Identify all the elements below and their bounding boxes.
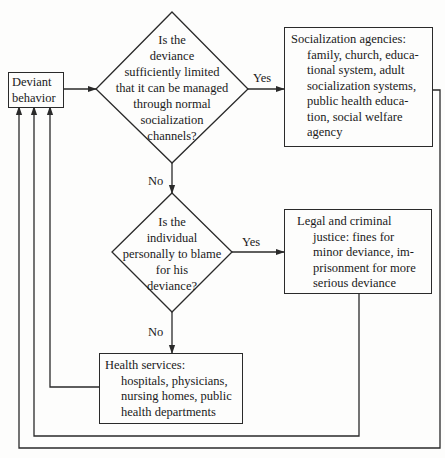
edge-label-d1-no: No (148, 174, 163, 188)
deviant-behavior-line-2: behavior (12, 91, 60, 107)
edge-label-d1-yes: Yes (253, 71, 271, 85)
socialization-line: socialization systems, (291, 79, 432, 95)
socialization-line: tion, social welfare (291, 110, 432, 126)
socialization-line: public health educa- (291, 94, 432, 110)
health-line: hospitals, physicians, (105, 374, 242, 390)
socialization-agencies-box: Socialization agencies: family, church, … (284, 27, 433, 147)
legal-title: Legal and criminal (297, 214, 431, 230)
deviant-behavior-box: Deviant behavior (8, 72, 64, 108)
decision-1-line: sufficiently limited (102, 64, 242, 80)
decision-1-line: that it can be managed (102, 80, 242, 96)
decision-1-line: deviance (102, 48, 242, 64)
decision-2-line: personally to blame (112, 246, 232, 262)
flowchart-canvas: Deviant behavior Is the deviance suffici… (0, 0, 445, 458)
decision-1-line: Is the (102, 32, 242, 48)
edge-label-d2-no: No (148, 325, 163, 339)
deviant-behavior-line-1: Deviant (12, 75, 60, 91)
decision-2-line: for his (112, 262, 232, 278)
legal-criminal-justice-box: Legal and criminal justice: fines for mi… (284, 209, 432, 294)
decision-2-line: Is the (112, 214, 232, 230)
socialization-title: Socialization agencies: (291, 32, 432, 48)
edge-label-d2-yes: Yes (242, 235, 260, 249)
health-line: nursing homes, public (105, 389, 242, 405)
health-line: health departments (105, 405, 242, 421)
health-services-box: Health services: hospitals, physicians, … (99, 353, 243, 424)
decision-2-line: deviance? (112, 278, 232, 294)
legal-line: justice: fines for (297, 230, 431, 246)
decision-2-question: Is the individual personally to blame fo… (112, 214, 232, 294)
decision-2-line: individual (112, 230, 232, 246)
socialization-line: family, church, educa- (291, 48, 432, 64)
legal-line: prisonment for more (297, 261, 431, 277)
decision-1-line: channels? (102, 128, 242, 144)
socialization-line: tional system, adult (291, 63, 432, 79)
decision-1-line: socialization (102, 112, 242, 128)
socialization-line: agency (291, 125, 432, 141)
legal-line: serious deviance (297, 276, 431, 292)
decision-1-question: Is the deviance sufficiently limited tha… (102, 32, 242, 144)
legal-line: minor deviance, im- (297, 245, 431, 261)
decision-1-line: through normal (102, 96, 242, 112)
health-title: Health services: (105, 358, 242, 374)
